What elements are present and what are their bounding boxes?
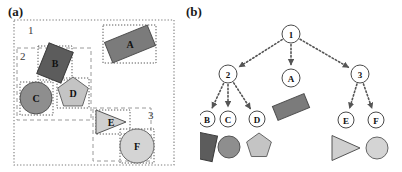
tree-shape-d — [247, 133, 272, 157]
panel-b-tree: 12A3BCDEF — [200, 0, 402, 172]
panel-a-scene: 1 2 3 A B C D E F — [0, 0, 200, 172]
shape-label-d: D — [69, 88, 76, 99]
edge-2-d — [234, 83, 251, 109]
shape-label-f: F — [134, 141, 140, 152]
panel-a-canvas: 1 2 3 A B C D E F — [0, 0, 200, 172]
tree-node-e-label: E — [343, 116, 349, 126]
edge-3-e — [350, 84, 357, 108]
tree-node-2-label: 2 — [226, 70, 231, 80]
group-label-2: 2 — [20, 50, 26, 62]
tree-shape-e — [332, 136, 360, 161]
edge-1-2 — [239, 40, 282, 67]
shape-label-a: A — [126, 39, 134, 50]
tree-node-c[interactable]: C — [220, 111, 236, 127]
tree-shape-f — [366, 137, 388, 159]
tree-node-a-label: A — [288, 74, 295, 84]
tree-node-f-label: F — [373, 116, 379, 126]
tree-node-a[interactable]: A — [282, 69, 300, 87]
tree-node-b-label: B — [204, 115, 210, 125]
tree-node-d-label: D — [254, 115, 261, 125]
shape-label-c: C — [32, 93, 39, 104]
tree-node-f[interactable]: F — [368, 112, 384, 128]
edge-1-3 — [300, 39, 348, 67]
tree-shape-b — [200, 132, 218, 161]
tree-node-3-label: 3 — [358, 70, 363, 80]
shape-label-e: E — [108, 117, 115, 128]
tree-node-b[interactable]: B — [200, 111, 215, 127]
tree-node-d[interactable]: D — [249, 111, 265, 127]
tree-node-3[interactable]: 3 — [351, 65, 369, 83]
figure-root: (a) (b) 1 2 3 — [0, 0, 402, 172]
group-label-3: 3 — [148, 109, 154, 121]
tree-node-2[interactable]: 2 — [219, 65, 237, 83]
tree-shape-a — [272, 94, 309, 121]
tree-node-1[interactable]: 1 — [282, 25, 300, 43]
shape-label-b: B — [52, 58, 59, 69]
panel-b-canvas: 12A3BCDEF — [200, 0, 402, 172]
group-label-1: 1 — [28, 24, 34, 36]
edge-2-b — [212, 84, 223, 108]
edge-3-f — [363, 84, 371, 108]
tree-node-1-label: 1 — [289, 30, 294, 40]
tree-node-e[interactable]: E — [338, 112, 354, 128]
tree-shape-c — [218, 136, 240, 158]
tree-node-c-label: C — [225, 115, 232, 125]
